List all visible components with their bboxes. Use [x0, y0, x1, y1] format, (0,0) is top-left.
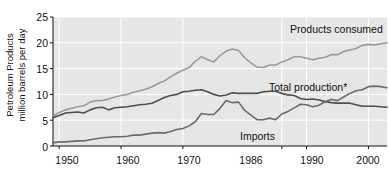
- petroleum-line-chart: Petroleum Products million barrels per d…: [0, 0, 389, 178]
- series-label-imports: Imports: [240, 131, 275, 142]
- series-label-products-consumed: Products consumed: [290, 24, 383, 35]
- series-label-total-production: Total production*: [269, 82, 347, 93]
